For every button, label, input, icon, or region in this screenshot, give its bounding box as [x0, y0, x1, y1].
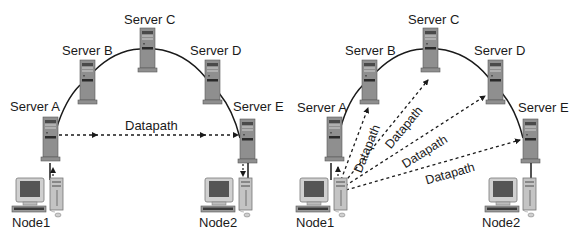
server-e-label: Server E	[518, 100, 569, 115]
server-e-label: Server E	[233, 99, 284, 114]
node2-label: Node2	[482, 215, 520, 230]
network-diagram: Server A Server B Server C Server D Serv…	[0, 0, 575, 238]
server-b-icon	[78, 60, 97, 104]
server-b-label: Server B	[62, 43, 113, 58]
server-a-icon	[41, 117, 60, 161]
server-b-icon	[360, 60, 379, 104]
server-d-icon	[486, 60, 505, 104]
node1-computer-icon	[296, 178, 347, 217]
node2-label: Node2	[199, 215, 237, 230]
server-d-label: Server D	[190, 43, 241, 58]
node1-label: Node1	[12, 215, 50, 230]
diagram-graphics	[0, 0, 575, 238]
server-c-label: Server C	[124, 12, 175, 27]
node2-computer-icon	[201, 178, 252, 217]
server-d-icon	[203, 60, 222, 104]
server-b-label: Server B	[345, 43, 396, 58]
arrow-icon	[92, 132, 98, 138]
server-c-label: Server C	[408, 12, 459, 27]
node1-computer-icon	[12, 178, 63, 217]
server-c-icon	[138, 28, 157, 72]
arrow-icon	[200, 132, 206, 138]
server-a-label: Server A	[297, 100, 347, 115]
server-d-label: Server D	[474, 43, 525, 58]
server-e-icon	[521, 119, 540, 163]
server-e-icon	[238, 119, 257, 163]
datapath-label: Datapath	[125, 118, 178, 133]
node2-computer-icon	[485, 178, 536, 217]
server-c-icon	[421, 28, 440, 72]
node1-label: Node1	[296, 215, 334, 230]
server-a-icon	[325, 117, 344, 161]
server-a-label: Server A	[10, 99, 60, 114]
